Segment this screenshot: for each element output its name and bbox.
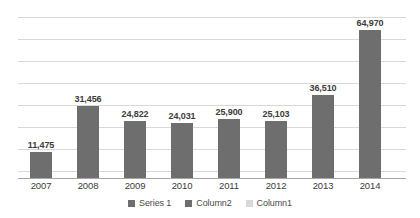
category-label-2009: 2009 (112, 180, 158, 191)
bar[interactable] (124, 121, 146, 178)
legend-swatch-icon (185, 200, 192, 207)
bar[interactable] (265, 121, 287, 178)
bar-value-label: 24,031 (169, 111, 196, 121)
bar-group: 24,822 (112, 14, 158, 178)
x-axis-line (18, 178, 406, 179)
legend: Series 1 Column2 Column1 (0, 198, 420, 208)
bar-group: 25,103 (253, 14, 299, 178)
bar-value-label: 64,970 (357, 18, 384, 28)
category-label-2010: 2010 (159, 180, 205, 191)
legend-item-column2[interactable]: Column2 (185, 198, 231, 208)
category-label-2014: 2014 (347, 180, 393, 191)
bar[interactable] (359, 30, 381, 178)
bar-value-label: 25,900 (216, 107, 243, 117)
category-label-2012: 2012 (253, 180, 299, 191)
category-axis: 2007 2008 2009 2010 2011 2012 2013 2014 (18, 180, 406, 196)
bar[interactable] (30, 152, 52, 178)
bars-layer: 11,475 31,456 24,822 24,031 25,900 25,10… (18, 14, 406, 178)
bar-group: 64,970 (347, 14, 393, 178)
bar[interactable] (171, 123, 193, 178)
bar-chart: 11,475 31,456 24,822 24,031 25,900 25,10… (0, 0, 420, 218)
bar-value-label: 11,475 (28, 140, 54, 150)
bar-group: 36,510 (300, 14, 346, 178)
legend-swatch-icon (128, 200, 135, 207)
legend-swatch-icon (246, 200, 253, 207)
bar-value-label: 25,103 (263, 109, 290, 119)
category-label-2007: 2007 (18, 180, 64, 191)
legend-item-column1[interactable]: Column1 (246, 198, 292, 208)
bar[interactable] (77, 106, 99, 178)
bar[interactable] (218, 119, 240, 178)
bar[interactable] (312, 95, 334, 178)
legend-label: Column2 (196, 198, 231, 208)
category-label-2013: 2013 (300, 180, 346, 191)
bar-group: 31,456 (65, 14, 111, 178)
bar-value-label: 24,822 (122, 109, 149, 119)
bar-value-label: 36,510 (310, 83, 337, 93)
bar-group: 24,031 (159, 14, 205, 178)
legend-label: Series 1 (139, 198, 171, 208)
bar-value-label: 31,456 (75, 94, 102, 104)
legend-item-series-1[interactable]: Series 1 (128, 198, 171, 208)
bar-group: 11,475 (18, 14, 64, 178)
bar-group: 25,900 (206, 14, 252, 178)
category-label-2008: 2008 (65, 180, 111, 191)
category-label-2011: 2011 (206, 180, 252, 191)
legend-label: Column1 (257, 198, 292, 208)
